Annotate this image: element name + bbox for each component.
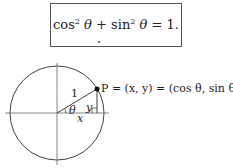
right-angle-icon [92, 108, 97, 113]
point-label: P = (x, y) = (cos θ, sin θ) [101, 82, 233, 95]
y-label: y [86, 101, 92, 114]
angle-arc-icon [65, 108, 66, 113]
x-label: x [77, 112, 83, 125]
radius-label: 1 [71, 87, 78, 100]
angle-label: θ [69, 104, 76, 117]
point-p-icon [95, 87, 100, 92]
